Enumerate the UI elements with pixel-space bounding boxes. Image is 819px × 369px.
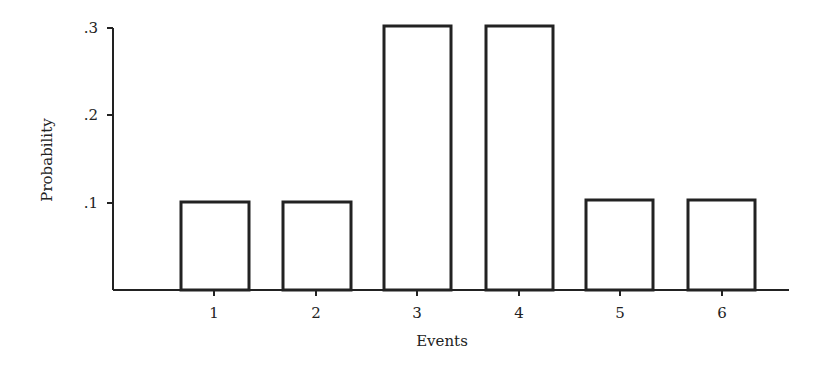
x-tick-label: 1 — [209, 304, 219, 322]
bar-event-3 — [384, 26, 451, 290]
x-axis-label: Events — [416, 332, 468, 350]
x-tick-label: 2 — [311, 304, 321, 322]
x-axis: 1 2 3 4 5 6 Events — [113, 290, 789, 350]
y-axis: .3 .2 .1 Probability — [38, 19, 113, 290]
x-tick-label: 4 — [514, 304, 524, 322]
bar-event-2 — [283, 202, 351, 290]
bar-event-5 — [586, 200, 653, 290]
y-axis-label: Probability — [38, 118, 56, 202]
bar-event-4 — [486, 26, 553, 290]
y-tick-label: .1 — [84, 194, 98, 212]
y-tick-label: .3 — [84, 19, 98, 37]
x-tick-label: 3 — [412, 304, 422, 322]
x-tick-label: 6 — [717, 304, 727, 322]
bar-chart: .3 .2 .1 Probability 1 2 3 4 5 6 Events — [0, 0, 819, 369]
x-tick-label: 5 — [615, 304, 625, 322]
bar-event-6 — [688, 200, 755, 290]
y-tick-label: .2 — [84, 106, 98, 124]
bars — [181, 26, 755, 290]
bar-event-1 — [181, 202, 249, 290]
